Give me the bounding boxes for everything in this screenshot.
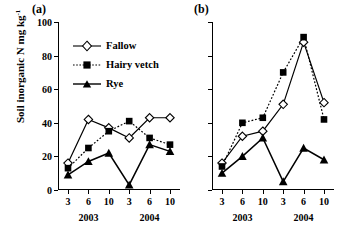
- data-point-filled-square: [321, 116, 328, 123]
- x-axis-tick-label: 10: [165, 196, 175, 207]
- legend-key-filled-triangle-icon: [72, 77, 102, 91]
- data-point-filled-triangle: [259, 134, 268, 142]
- panel-b-label: (b): [194, 2, 209, 17]
- data-point-open-diamond: [320, 98, 328, 106]
- legend-item-rye: Rye: [72, 74, 159, 93]
- data-point-filled-square: [85, 145, 92, 152]
- series-line-rye: [222, 138, 324, 182]
- data-point-filled-triangle: [64, 171, 73, 179]
- y-axis-tick: [208, 190, 212, 191]
- data-point-open-diamond: [84, 115, 92, 123]
- x-axis-tick-label: 10: [319, 196, 329, 207]
- x-axis-tick: [242, 190, 243, 194]
- data-point-filled-square: [280, 69, 287, 76]
- legend-key-filled-square-icon: [72, 58, 102, 72]
- chart-panel-b: (b) 3610361020032004: [212, 22, 334, 190]
- x-axis-tick: [304, 190, 305, 194]
- data-point-filled-triangle: [279, 177, 288, 185]
- y-axis-tick-label: 100: [37, 17, 52, 28]
- x-axis-tick: [109, 190, 110, 194]
- data-point-filled-square: [167, 141, 174, 148]
- data-point-filled-square: [126, 118, 133, 125]
- series-line-rye: [68, 145, 170, 185]
- legend-label-hairy-vetch: Hairy vetch: [106, 59, 159, 70]
- y-axis-title: Soil inorganic N mg kg-1: [14, 0, 27, 156]
- x-axis-tick-label: 3: [127, 196, 132, 207]
- data-point-filled-triangle: [105, 149, 114, 157]
- x-axis-tick: [263, 190, 264, 194]
- data-point-filled-triangle: [299, 144, 308, 152]
- x-axis-tick: [68, 190, 69, 194]
- x-axis-tick-label: 6: [301, 196, 306, 207]
- legend-item-hairy-vetch: Hairy vetch: [72, 55, 159, 74]
- x-axis-tick-label: 10: [104, 196, 114, 207]
- data-point-filled-square: [260, 114, 267, 121]
- x-axis-group-label: 2003: [78, 212, 98, 223]
- panel-b-series-layer: [212, 22, 334, 190]
- x-axis-tick: [129, 190, 130, 194]
- x-axis-tick: [150, 190, 151, 194]
- legend-label-rye: Rye: [106, 78, 123, 89]
- data-point-filled-square: [146, 135, 153, 142]
- x-axis-tick-label: 3: [66, 196, 71, 207]
- x-axis-tick-label: 10: [258, 196, 268, 207]
- y-axis-tick-label: 20: [42, 151, 52, 162]
- data-point-filled-square: [219, 163, 226, 170]
- data-point-filled-triangle: [320, 155, 329, 163]
- x-axis-tick: [324, 190, 325, 194]
- x-axis-tick-label: 6: [86, 196, 91, 207]
- x-axis-tick: [222, 190, 223, 194]
- y-axis-tick-label: 60: [42, 84, 52, 95]
- series-line-fallow: [68, 118, 170, 163]
- panel-b-plot-area: 3610361020032004: [212, 22, 334, 190]
- y-axis-tick: [54, 190, 58, 191]
- y-axis-title-text: Soil inorganic N mg kg: [14, 15, 26, 123]
- data-point-filled-triangle: [145, 140, 154, 148]
- data-point-filled-triangle: [125, 181, 134, 189]
- x-axis-tick: [283, 190, 284, 194]
- data-point-filled-square: [300, 34, 307, 41]
- series-line-fallow: [222, 42, 324, 163]
- y-axis-tick-label: 40: [42, 117, 52, 128]
- y-axis-tick-label: 80: [42, 50, 52, 61]
- series-line-hairy-vetch: [68, 121, 170, 168]
- y-axis-tick-label: 0: [47, 185, 52, 196]
- legend-key-open-diamond-icon: [72, 39, 102, 53]
- figure-container: Soil inorganic N mg kg-1 (a) 02040608010…: [0, 0, 354, 232]
- x-axis-group-label: 2004: [294, 212, 314, 223]
- x-axis-tick: [170, 190, 171, 194]
- chart-legend: Fallow Hairy vetch Rye: [72, 36, 159, 93]
- x-axis-group-label: 2004: [140, 212, 160, 223]
- legend-label-fallow: Fallow: [106, 40, 136, 51]
- data-point-filled-square: [239, 120, 246, 127]
- x-axis-tick-label: 6: [147, 196, 152, 207]
- x-axis-tick-label: 6: [240, 196, 245, 207]
- data-point-open-diamond: [166, 114, 174, 122]
- y-axis-title-exponent: -1: [14, 10, 22, 16]
- x-axis-group-label: 2003: [232, 212, 252, 223]
- panel-a-label: (a): [32, 2, 46, 17]
- data-point-filled-square: [65, 165, 72, 172]
- x-axis-tick-label: 3: [220, 196, 225, 207]
- legend-item-fallow: Fallow: [72, 36, 159, 55]
- x-axis-tick-label: 3: [281, 196, 286, 207]
- x-axis-tick: [88, 190, 89, 194]
- data-point-filled-square: [106, 128, 113, 135]
- data-point-filled-triangle: [84, 157, 93, 165]
